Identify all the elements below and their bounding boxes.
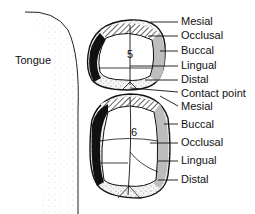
label-lower-occlusal: Occlusal [181, 136, 223, 148]
label-upper-occlusal: Occlusal [181, 29, 223, 41]
label-lower-lingual: Lingual [181, 154, 216, 166]
label-upper-buccal: Buccal [181, 44, 214, 56]
label-lower-mesial: Mesial [181, 100, 213, 112]
label-lower-buccal: Buccal [181, 118, 214, 130]
label-lower-distal: Distal [181, 173, 209, 185]
label-upper-distal: Distal [181, 73, 209, 85]
tooth-number-6: 6 [131, 126, 137, 138]
label-upper-lingual: Lingual [181, 59, 216, 71]
label-upper-mesial: Mesial [181, 15, 213, 27]
tongue [25, 12, 78, 214]
lower-tooth-6 [90, 94, 170, 198]
tooth-number-5: 5 [127, 48, 133, 60]
tongue-label: Tongue [15, 54, 51, 66]
label-contact-point: Contact point [181, 87, 246, 99]
